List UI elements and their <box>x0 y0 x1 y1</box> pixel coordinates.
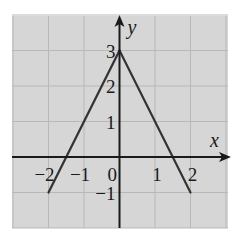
y-tick-label: 3 <box>106 41 116 62</box>
x-tick-label: 2 <box>188 164 198 185</box>
graph: −2−1012321−1 x y <box>0 0 232 230</box>
x-tick-label: −2 <box>34 164 54 185</box>
y-tick-label: 1 <box>106 112 116 133</box>
x-axis-label: x <box>209 129 219 151</box>
x-tick-label: −1 <box>70 164 90 185</box>
x-tick-label: 1 <box>152 164 162 185</box>
y-tick-label: 2 <box>106 76 116 97</box>
y-axis-label: y <box>126 16 137 39</box>
y-tick-label: −1 <box>95 183 115 204</box>
